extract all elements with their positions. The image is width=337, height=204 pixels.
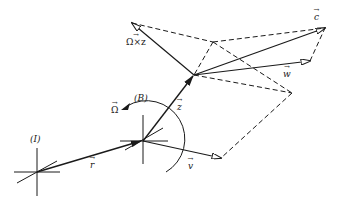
label-frame-i: (I) [30, 135, 41, 144]
label-omega: Ω [111, 106, 118, 115]
vector-w [194, 61, 310, 75]
label-vector-v: v [188, 162, 193, 171]
label-vector-w: w [283, 70, 291, 79]
vector-diagram [0, 0, 337, 204]
label-vector-c: c [314, 13, 319, 22]
rotation-arrowhead-icon [121, 103, 130, 110]
label-vector-r: r [90, 161, 94, 170]
label-vector-z: z [177, 103, 182, 112]
construction-lines [132, 23, 325, 158]
label-frame-b: (B) [134, 94, 148, 103]
vector-z [143, 76, 193, 141]
vector-c [194, 28, 325, 75]
vector-v [143, 141, 221, 158]
vector-omega-cross-z [132, 23, 194, 75]
label-omega-cross-z: Ω×z [126, 38, 146, 47]
